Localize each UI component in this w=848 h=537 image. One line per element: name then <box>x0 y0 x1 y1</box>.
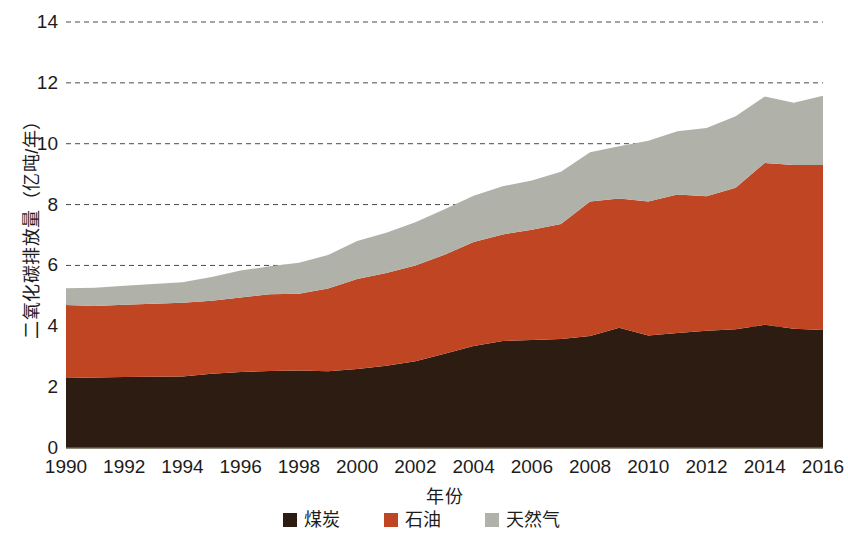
legend-swatch-icon <box>485 513 499 527</box>
y-tick-label: 8 <box>24 195 58 214</box>
legend-item[interactable]: 煤炭 <box>283 511 340 529</box>
legend-label: 石油 <box>405 511 441 529</box>
y-tick-label: 4 <box>24 316 58 335</box>
stacked-areas <box>66 96 823 448</box>
legend-item[interactable]: 石油 <box>384 511 441 529</box>
y-tick-label: 10 <box>24 134 58 153</box>
legend-swatch-icon <box>384 513 398 527</box>
legend-label: 煤炭 <box>304 511 340 529</box>
y-tick-label: 12 <box>24 73 58 92</box>
x-axis-title: 年份 <box>66 482 823 508</box>
plot-area <box>66 14 823 456</box>
y-tick-label: 14 <box>24 12 58 31</box>
x-tick-label: 2016 <box>788 456 848 478</box>
y-tick-label: 6 <box>24 255 58 274</box>
chart-legend: 煤炭石油天然气 <box>0 511 843 529</box>
y-tick-label: 0 <box>24 438 58 457</box>
legend-item[interactable]: 天然气 <box>485 511 560 529</box>
legend-swatch-icon <box>283 513 297 527</box>
legend-label: 天然气 <box>506 511 560 529</box>
plot-svg <box>66 14 823 456</box>
y-tick-label: 2 <box>24 377 58 396</box>
